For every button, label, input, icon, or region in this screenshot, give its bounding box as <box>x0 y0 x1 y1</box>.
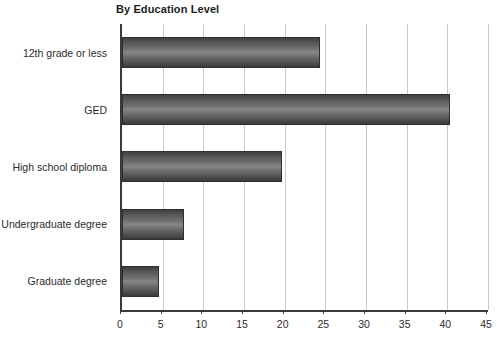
category-label: GED <box>84 104 107 116</box>
x-tickmark <box>445 310 446 314</box>
chart-title: By Education Level <box>116 3 219 15</box>
x-tick-label: 30 <box>358 318 370 330</box>
x-tickmark <box>364 310 365 314</box>
bar[interactable] <box>122 151 282 182</box>
x-tick-label: 35 <box>399 318 411 330</box>
x-tickmark <box>405 310 406 314</box>
x-tickmark <box>323 310 324 314</box>
x-tickmark <box>242 310 243 314</box>
x-tick-label: 45 <box>480 318 492 330</box>
gridline-25 <box>325 24 326 310</box>
x-tickmark <box>283 310 284 314</box>
x-tick-label: 10 <box>195 318 207 330</box>
bar[interactable] <box>122 266 159 297</box>
category-label: Undergraduate degree <box>1 218 107 230</box>
category-label: Graduate degree <box>28 275 107 287</box>
gridline-40 <box>447 24 448 310</box>
x-tick-label: 0 <box>117 318 123 330</box>
x-tick-label: 15 <box>236 318 248 330</box>
x-tickmark <box>161 310 162 314</box>
plot-area <box>120 24 488 312</box>
education-level-bar-chart: By Education Level 12th grade or lessGED… <box>0 0 501 348</box>
gridline-45 <box>488 24 489 310</box>
x-tick-label: 40 <box>439 318 451 330</box>
x-tickmark <box>201 310 202 314</box>
x-tickmark <box>120 310 121 314</box>
bar[interactable] <box>122 94 450 125</box>
category-axis-labels: 12th grade or lessGEDHigh school diploma… <box>0 24 113 310</box>
gridline-35 <box>407 24 408 310</box>
x-tick-label: 25 <box>317 318 329 330</box>
bar[interactable] <box>122 37 320 68</box>
x-tick-label: 5 <box>158 318 164 330</box>
x-tick-label: 20 <box>277 318 289 330</box>
gridline-30 <box>366 24 367 310</box>
x-tickmark <box>486 310 487 314</box>
bar[interactable] <box>122 209 184 240</box>
category-label: High school diploma <box>12 161 107 173</box>
category-label: 12th grade or less <box>23 47 107 59</box>
